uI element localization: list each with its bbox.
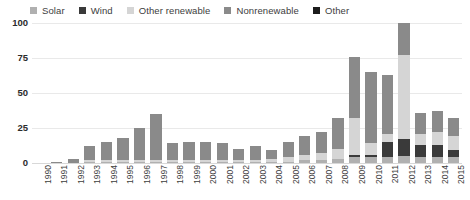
x-axis-tick-label: 1998 [176, 165, 185, 184]
bar-segment [349, 157, 360, 163]
bar-segment [233, 162, 244, 163]
chart-container: SolarWindOther renewableNonrenewableOthe… [0, 0, 470, 200]
x-axis-tick-label: 2014 [441, 165, 450, 184]
bar-column[interactable] [382, 75, 393, 163]
legend-item-nonrenewable[interactable]: Nonrenewable [224, 5, 298, 16]
bar-column[interactable] [183, 142, 194, 163]
bar-segment [432, 145, 443, 158]
bar-segment [200, 162, 211, 163]
bar-segment [432, 132, 443, 145]
bar-column[interactable] [365, 72, 376, 163]
bar-segment [448, 118, 459, 136]
legend-swatch-icon [30, 7, 37, 14]
x-axis-tick-label: 2002 [242, 165, 251, 184]
bar-segment [448, 157, 459, 163]
x-axis-tick-label: 1992 [77, 165, 86, 184]
y-axis-tick-label: 100 [2, 18, 28, 28]
bar-segment [167, 162, 178, 163]
bar-segment [415, 157, 426, 163]
legend-label: Other renewable [139, 5, 211, 16]
bar-segment [365, 157, 376, 163]
x-axis-tick-label: 1991 [60, 165, 69, 184]
legend-item-solar[interactable]: Solar [30, 5, 65, 16]
bar-column[interactable] [250, 146, 261, 163]
bar-segment [365, 72, 376, 143]
bar-column[interactable] [415, 113, 426, 163]
x-axis-tick-label: 2010 [375, 165, 384, 184]
y-axis-tick-label: 50 [2, 88, 28, 98]
bar-segment [217, 143, 228, 160]
x-axis-tick-label: 1993 [93, 165, 102, 184]
bar-column[interactable] [84, 146, 95, 163]
bar-segment [101, 142, 112, 160]
bar-column[interactable] [167, 143, 178, 163]
y-axis-tick-label: 0 [2, 158, 28, 168]
bar-segment [283, 162, 294, 163]
bar-column[interactable] [134, 128, 145, 163]
bar-segment [84, 146, 95, 160]
bar-column[interactable] [150, 114, 161, 163]
legend-swatch-icon [79, 7, 86, 14]
x-axis-tick-label: 2004 [275, 165, 284, 184]
bar-column[interactable] [448, 118, 459, 163]
bar-segment [382, 134, 393, 142]
y-axis-tick-label: 25 [2, 123, 28, 133]
x-axis-tick-label: 2008 [341, 165, 350, 184]
bar-segment [299, 136, 310, 154]
bar-segment [51, 162, 62, 163]
bar-column[interactable] [101, 142, 112, 163]
bar-segment [299, 160, 310, 163]
bar-segment [398, 156, 409, 163]
legend-label: Nonrenewable [236, 5, 298, 16]
x-axis-tick-label: 2011 [391, 165, 400, 183]
x-axis-tick-label: 2005 [292, 165, 301, 184]
legend-swatch-icon [313, 7, 320, 14]
bar-segment [398, 55, 409, 139]
legend-item-other_renewable[interactable]: Other renewable [127, 5, 211, 16]
x-axis-labels: 1990199119921993199419951996199719981999… [32, 165, 462, 199]
bar-column[interactable] [233, 149, 244, 163]
bar-segment [448, 136, 459, 150]
bar-segment [415, 113, 426, 134]
bar-segment [200, 142, 211, 160]
x-axis-tick-label: 2000 [209, 165, 218, 184]
bar-segment [382, 142, 393, 157]
bar-segment [134, 128, 145, 160]
bar-column[interactable] [117, 138, 128, 163]
bar-column[interactable] [432, 111, 443, 163]
bar-column[interactable] [68, 159, 79, 163]
bar-column[interactable] [283, 142, 294, 163]
bar-segment [117, 162, 128, 163]
bar-segment [150, 162, 161, 163]
bar-segment [250, 162, 261, 163]
bar-segment [150, 114, 161, 160]
bar-column[interactable] [266, 150, 277, 163]
bar-segment [349, 57, 360, 119]
legend-swatch-icon [127, 7, 134, 14]
bar-segment [415, 134, 426, 145]
bar-column[interactable] [316, 132, 327, 163]
x-axis-tick-label: 2003 [259, 165, 268, 184]
bar-column[interactable] [51, 162, 62, 163]
bar-segment [448, 150, 459, 157]
x-axis-tick-label: 2015 [457, 165, 466, 184]
x-axis-tick-label: 1999 [193, 165, 202, 184]
bar-segment [316, 153, 327, 160]
gridline [32, 163, 462, 164]
bar-column[interactable] [332, 118, 343, 163]
bar-column[interactable] [217, 143, 228, 163]
bar-segment [250, 146, 261, 160]
legend-item-other[interactable]: Other [313, 5, 349, 16]
bar-column[interactable] [398, 23, 409, 163]
bar-segment [316, 132, 327, 153]
bar-segment [415, 145, 426, 158]
bar-column[interactable] [349, 57, 360, 163]
bar-segment [233, 149, 244, 160]
bar-segment [68, 159, 79, 163]
legend-item-wind[interactable]: Wind [79, 5, 113, 16]
x-axis-tick-label: 2009 [358, 165, 367, 184]
bar-segment [398, 139, 409, 156]
bar-column[interactable] [299, 136, 310, 163]
bar-column[interactable] [200, 142, 211, 163]
bar-segment [183, 142, 194, 160]
